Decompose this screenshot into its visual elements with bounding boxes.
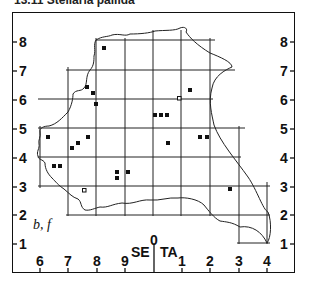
se-label: SE — [131, 244, 150, 260]
svg-text:4: 4 — [280, 150, 288, 166]
svg-text:2: 2 — [206, 253, 214, 269]
svg-text:5: 5 — [19, 121, 27, 137]
record-points — [46, 46, 232, 191]
svg-text:7: 7 — [19, 63, 27, 79]
svg-text:3: 3 — [19, 179, 27, 195]
svg-text:6: 6 — [19, 92, 27, 108]
zero-label: 0 — [150, 232, 158, 248]
ta-label: TA — [160, 244, 178, 260]
svg-text:2: 2 — [280, 207, 288, 223]
coastline-outline — [37, 27, 270, 243]
svg-text:3: 3 — [280, 179, 288, 195]
svg-text:6: 6 — [280, 92, 288, 108]
svg-text:8: 8 — [19, 34, 27, 50]
svg-text:7: 7 — [280, 63, 288, 79]
svg-text:8: 8 — [280, 34, 288, 50]
svg-text:1: 1 — [280, 236, 288, 252]
svg-text:5: 5 — [280, 121, 288, 137]
svg-text:1: 1 — [19, 236, 27, 252]
svg-text:4: 4 — [19, 150, 27, 166]
svg-text:4: 4 — [263, 253, 271, 269]
svg-text:8: 8 — [93, 253, 101, 269]
distribution-map: 8 7 6 5 4 3 2 1 8 7 6 5 4 3 2 1 6 7 8 9 … — [0, 0, 309, 288]
svg-text:2: 2 — [19, 207, 27, 223]
svg-text:7: 7 — [64, 253, 72, 269]
y-axis-labels-left: 8 7 6 5 4 3 2 1 — [19, 34, 27, 252]
grid-lines — [38, 30, 270, 244]
svg-text:6: 6 — [36, 253, 44, 269]
y-axis-labels-right: 8 7 6 5 4 3 2 1 — [280, 34, 288, 252]
annotation-label: b, f — [33, 217, 53, 232]
svg-text:3: 3 — [235, 253, 243, 269]
svg-text:1: 1 — [178, 253, 186, 269]
svg-text:9: 9 — [121, 253, 129, 269]
